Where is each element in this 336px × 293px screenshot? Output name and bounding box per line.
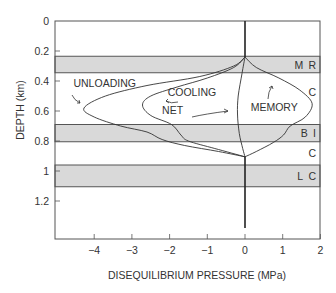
- curve-annotations: UNLOADINGCOOLINGNETMEMORY: [72, 77, 298, 117]
- zone-label: L C: [297, 170, 316, 182]
- unloading-label: UNLOADING: [73, 77, 135, 89]
- zone-label: C: [308, 86, 316, 98]
- y-tick-label: 1.2: [34, 195, 49, 207]
- x-tick-label: −1: [201, 244, 213, 256]
- net-arrow: [192, 111, 228, 117]
- memory-arrow: [268, 86, 272, 99]
- x-axis-title: DISEQUILIBRIUM PRESSURE (MPa): [108, 269, 286, 281]
- shaded-band: [55, 125, 320, 142]
- y-axis-title: DEPTH (km): [14, 80, 26, 140]
- x-tick-label: −2: [164, 244, 176, 256]
- x-tick-label: 2: [317, 244, 323, 256]
- y-tick-label: 0.4: [34, 75, 49, 87]
- depth-pressure-chart: −4−3−2−101200.20.40.60.811.2 M RB IL CCC…: [0, 0, 336, 293]
- shaded-band: [55, 165, 320, 187]
- shaded-band: [55, 56, 320, 73]
- unloading-arrow: [72, 95, 80, 103]
- y-tick-label: 0.6: [34, 105, 49, 117]
- zone-labels: M RB IL CCC: [294, 59, 316, 182]
- memory-label: MEMORY: [251, 101, 298, 113]
- y-tick-label: 1: [43, 165, 49, 177]
- x-tick-label: 1: [280, 244, 286, 256]
- net-label: NET: [162, 104, 184, 116]
- cooling-label: COOLING: [168, 86, 216, 98]
- cooling-arrowhead: [166, 99, 169, 103]
- shaded-zones: [55, 56, 320, 187]
- y-tick-label: 0.2: [34, 45, 49, 57]
- zone-label: C: [308, 147, 316, 159]
- zone-label: M R: [294, 59, 316, 71]
- y-tick-label: 0: [43, 15, 49, 27]
- x-tick-label: −4: [88, 244, 100, 256]
- x-tick-label: 0: [242, 244, 248, 256]
- x-tick-label: −3: [126, 244, 138, 256]
- zone-label: B I: [301, 127, 316, 139]
- y-tick-label: 0.8: [34, 135, 49, 147]
